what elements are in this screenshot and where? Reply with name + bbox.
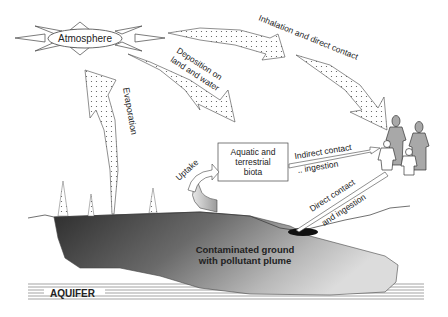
biota-box: Aquatic and terrestrial biota (218, 143, 288, 181)
biota-label-line2: terrestrial (235, 157, 271, 167)
inhalation-arrow-lower (296, 55, 387, 130)
contaminant-pathway-diagram: AQUIFER Contaminated ground with polluta… (0, 0, 448, 317)
atmosphere-node: Atmosphere (15, 22, 165, 55)
indirect-label-line2: .. ingestion (297, 159, 339, 175)
tree-icon (58, 181, 157, 216)
ground-label-line2: with pollutant plume (198, 255, 291, 266)
ground-label-line1: Contaminated ground (196, 244, 295, 255)
direct-contact-arrow (296, 172, 388, 232)
atmosphere-label: Atmosphere (58, 33, 112, 44)
biota-label-line1: Aquatic and (231, 147, 276, 157)
biota-label-line3: biota (244, 167, 263, 177)
evaporation-label: Evaporation (121, 87, 139, 136)
evaporation-arrow (85, 70, 118, 214)
aquifer-label: AQUIFER (50, 288, 96, 299)
